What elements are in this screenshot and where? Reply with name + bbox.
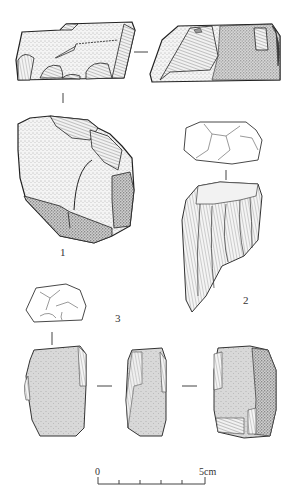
artifact-3-platform-view bbox=[26, 284, 86, 322]
scale-bar bbox=[98, 477, 205, 484]
artifact-3-label: 3 bbox=[115, 312, 121, 324]
artifact-1-label: 1 bbox=[60, 246, 66, 258]
artifact-1-side-view-right bbox=[150, 24, 280, 82]
scale-bar-end-label: 5cm bbox=[199, 466, 216, 477]
artifact-1-face-view bbox=[18, 116, 134, 243]
scale-bar-start-label: 0 bbox=[95, 466, 100, 477]
artifact-3-side-view bbox=[126, 348, 166, 436]
artifact-1-side-view-left bbox=[16, 22, 135, 80]
artifact-2-label: 2 bbox=[243, 294, 249, 306]
artifact-2-face-view bbox=[182, 182, 262, 312]
artifact-3-face-view-reverse bbox=[214, 346, 276, 438]
artifact-2-platform-view bbox=[184, 122, 262, 164]
artifact-3-face-view bbox=[24, 346, 86, 436]
lithic-illustration-plate: 1 2 3 bbox=[0, 0, 299, 500]
